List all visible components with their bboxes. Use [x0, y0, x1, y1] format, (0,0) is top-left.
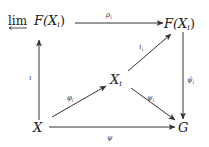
label-rho-i: ρi — [105, 11, 112, 20]
label-psi-i: ψi — [147, 94, 155, 103]
arrow-iota-i — [128, 34, 171, 71]
svg-text:Xi: Xi — [109, 72, 122, 88]
node-f-xi: F(Xi) — [163, 16, 195, 32]
svg-text:F(Xi): F(Xi) — [33, 13, 65, 29]
f-xi-close: ) — [190, 16, 195, 31]
node-lim-f-xi: lim F(Xi) — [8, 13, 65, 30]
arrow-psi-i — [131, 88, 175, 120]
node-g: G — [178, 120, 188, 135]
x-text: X — [32, 120, 43, 135]
node-x: X — [32, 120, 43, 135]
arrow-phi-i — [52, 86, 106, 117]
label-psi: ψ — [107, 134, 113, 142]
label-psi-bar-i: ψ̄i — [187, 76, 195, 85]
commutative-diagram: lim F(Xi) F(Xi) Xi X G ρi ι φi ιi ψi ψ̄i… — [0, 0, 209, 147]
svg-text:F(Xi): F(Xi) — [163, 16, 195, 32]
f-xi-text: F(X — [163, 16, 188, 31]
lim-f-text: F(X — [33, 13, 58, 28]
label-iota-i: ιi — [139, 43, 144, 52]
xi-sub: i — [119, 79, 122, 88]
label-phi-i: φi — [67, 94, 74, 103]
node-xi: Xi — [109, 72, 122, 88]
lim-text: lim — [8, 14, 28, 28]
label-iota: ι — [29, 74, 32, 82]
lim-f-close: ) — [60, 13, 65, 28]
g-text: G — [178, 120, 188, 135]
